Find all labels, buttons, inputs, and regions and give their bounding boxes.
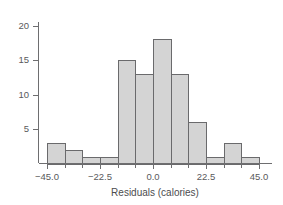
y-tick-label: 20 xyxy=(18,20,29,31)
histogram-bar xyxy=(189,123,207,164)
x-tick-label: 45.0 xyxy=(250,171,269,182)
x-tick-label: 0.0 xyxy=(146,171,159,182)
bars-group xyxy=(48,40,260,164)
histogram-bar xyxy=(48,143,66,164)
histogram-bar xyxy=(207,157,225,164)
plot-area: 5101520 −45.0−22.50.022.545.0 Residuals … xyxy=(0,0,283,205)
x-axis: −45.0−22.50.022.545.0 xyxy=(35,164,272,183)
histogram-bar xyxy=(118,61,136,165)
y-tick-label: 10 xyxy=(18,89,29,100)
histogram-bar xyxy=(65,150,83,164)
y-tick-label: 5 xyxy=(24,123,29,134)
histogram-bar xyxy=(242,157,260,164)
x-tick-group: −45.0−22.50.022.545.0 xyxy=(35,164,268,183)
histogram-bar xyxy=(154,40,172,164)
y-axis: 5101520 xyxy=(18,20,38,163)
x-tick-label: 22.5 xyxy=(197,171,216,182)
x-axis-title: Residuals (calories) xyxy=(111,187,199,198)
histogram-figure: 5101520 −45.0−22.50.022.545.0 Residuals … xyxy=(0,0,283,205)
histogram-bar xyxy=(136,74,154,164)
x-tick-label: −45.0 xyxy=(35,171,59,182)
histogram-bar xyxy=(224,143,242,164)
x-tick-label: −22.5 xyxy=(88,171,112,182)
histogram-bar xyxy=(83,157,101,164)
y-tick-label: 15 xyxy=(18,54,29,65)
histogram-bar xyxy=(171,74,189,164)
y-tick-group: 5101520 xyxy=(18,20,38,134)
histogram-chart: 5101520 −45.0−22.50.022.545.0 Residuals … xyxy=(0,0,283,205)
histogram-bar xyxy=(101,157,119,164)
